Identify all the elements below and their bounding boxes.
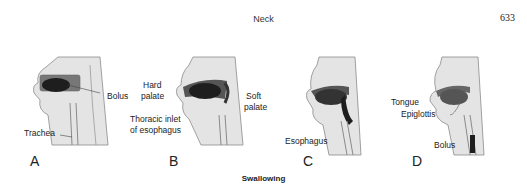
label-hard-palate-line2: palate [141, 91, 164, 101]
panel-letter-a: A [30, 153, 39, 169]
panel-letter-d: D [412, 153, 422, 169]
panel-letter-c: C [303, 153, 313, 169]
label-epiglottis: Epiglottis [401, 109, 436, 119]
page-header-title: Neck [0, 14, 527, 24]
label-esophagus: Esophagus [285, 136, 328, 146]
label-thoracic-inlet-line1: Thoracic inlet [130, 114, 181, 124]
label-bolus-a: Bolus [107, 91, 128, 101]
label-hard-palate-line1: Hard [143, 80, 161, 90]
label-soft-palate-line1: Soft [246, 91, 261, 101]
label-bolus-d: Bolus [434, 140, 455, 150]
label-tongue: Tongue [391, 97, 419, 107]
page-number: 633 [500, 12, 515, 23]
label-thoracic-inlet-line2: of esophagus [130, 125, 181, 135]
panel-letter-b: B [169, 153, 178, 169]
figure-caption: Swallowing [0, 174, 527, 183]
label-soft-palate-line2: palate [244, 102, 267, 112]
label-trachea: Trachea [24, 128, 55, 138]
